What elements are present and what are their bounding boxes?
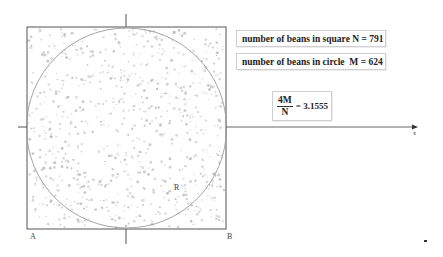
bean-dot <box>164 164 166 166</box>
bean-dot <box>177 226 180 229</box>
bean-dot <box>76 53 78 55</box>
bean-dot <box>168 95 169 96</box>
bean-dot <box>30 36 33 39</box>
bean-dot <box>120 46 121 47</box>
bean-dot <box>93 29 94 30</box>
bean-dot <box>49 128 51 130</box>
bean-dot <box>57 105 60 108</box>
bean-dot <box>39 149 41 151</box>
bean-dot <box>92 54 95 57</box>
bean-dot <box>83 172 86 175</box>
bean-dot <box>159 207 161 209</box>
bean-dot <box>205 58 208 61</box>
bean-dot <box>119 102 120 103</box>
bean-dot <box>143 219 146 222</box>
bean-dot <box>203 58 204 59</box>
bean-dot <box>221 220 224 223</box>
bean-dot <box>123 53 125 55</box>
bean-dot <box>159 227 160 228</box>
bean-dot <box>199 115 201 117</box>
bean-dot <box>63 217 66 220</box>
bean-dot <box>126 81 128 83</box>
bean-dot <box>200 129 203 132</box>
square-count-box: number of beans in square N = 791 <box>236 30 386 47</box>
bean-dot <box>75 97 77 99</box>
bean-dot <box>193 174 194 175</box>
bean-dot <box>140 166 141 167</box>
bean-dot <box>108 65 110 67</box>
bean-dot <box>94 208 97 211</box>
bean-dot <box>31 50 33 52</box>
bean-dot <box>217 154 219 156</box>
bean-dot <box>106 206 108 208</box>
bean-dot <box>153 225 155 227</box>
bean-dot <box>151 169 153 171</box>
bean-dot <box>62 116 64 118</box>
bean-dot <box>45 197 47 199</box>
bean-dot <box>61 88 62 89</box>
bean-dot <box>56 184 59 187</box>
bean-dot <box>217 74 218 75</box>
bean-dot <box>202 175 204 177</box>
bean-dot <box>148 167 149 168</box>
bean-dot <box>55 92 58 95</box>
bean-dot <box>219 151 220 152</box>
bean-dot <box>173 107 176 110</box>
bean-dot <box>49 121 52 124</box>
bean-dot <box>210 156 211 157</box>
bean-dot <box>34 184 35 185</box>
bean-dot <box>186 65 187 66</box>
radius-label: R <box>174 183 179 192</box>
bean-dot <box>171 142 173 144</box>
bean-dot <box>61 207 63 209</box>
bean-dot <box>31 112 33 114</box>
bean-dot <box>137 155 139 157</box>
bean-dot <box>36 185 37 186</box>
bean-dot <box>44 102 45 103</box>
bean-dot <box>221 102 223 104</box>
bean-dot <box>168 190 171 193</box>
bean-dot <box>143 89 146 92</box>
bean-dot <box>60 28 63 31</box>
bean-dot <box>170 96 171 97</box>
bean-dot <box>122 124 124 126</box>
bean-dot <box>160 185 162 187</box>
bean-dot <box>136 137 138 139</box>
bean-dot <box>132 33 134 35</box>
bean-dot <box>151 120 153 122</box>
bean-dot <box>175 134 178 137</box>
bean-dot <box>35 176 38 179</box>
square-outline <box>27 27 226 229</box>
bean-dot <box>27 39 30 42</box>
bean-dot <box>139 138 141 140</box>
bean-dot <box>135 73 136 74</box>
bean-dot <box>79 110 81 112</box>
bean-dot <box>103 200 104 201</box>
bean-dot <box>160 134 163 137</box>
bean-dot <box>33 127 35 129</box>
formula-result: 3.1555 <box>303 101 328 111</box>
bean-dot <box>59 123 61 125</box>
bean-dot <box>182 169 183 170</box>
bean-dot <box>63 226 65 228</box>
bean-dot <box>86 206 88 208</box>
bean-dot <box>113 50 115 52</box>
bean-dot <box>205 181 208 184</box>
bean-dot <box>52 153 54 155</box>
bean-dot <box>129 192 132 195</box>
bean-dot <box>123 218 125 220</box>
bean-dot <box>194 180 196 182</box>
bean-dot <box>64 213 66 215</box>
bean-dot <box>207 45 209 47</box>
bean-dot <box>123 211 124 212</box>
bean-dot <box>138 161 140 163</box>
bean-dot <box>83 130 85 132</box>
bean-dot <box>47 151 49 153</box>
bean-dot <box>219 105 222 108</box>
bean-dot <box>95 28 97 30</box>
bean-dot <box>118 217 121 220</box>
bean-dot <box>208 88 211 91</box>
bean-dot <box>64 53 66 55</box>
bean-dot <box>205 51 207 53</box>
bean-dot <box>49 177 52 180</box>
